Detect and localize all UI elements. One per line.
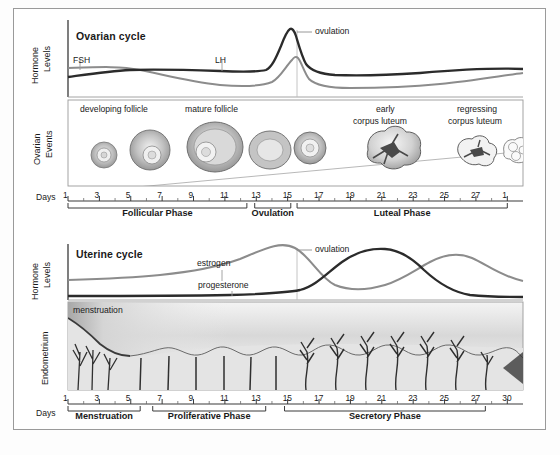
axis-tick-label: 1 xyxy=(63,393,68,403)
structure-early-corpus-luteum xyxy=(367,126,420,169)
axis-label-endometrium: Endometrium xyxy=(40,331,50,385)
structure-primary-follicle xyxy=(130,130,170,170)
ovarian-days-axis xyxy=(68,196,523,208)
event-label-early-corpus-luteum-1: early xyxy=(376,104,395,114)
menstruation-label: menstruation xyxy=(73,305,123,315)
axis-label-hormone-ovarian-1: Hormone xyxy=(30,47,40,84)
axis-tick-label: 25 xyxy=(440,190,449,200)
axis-tick-label: 23 xyxy=(408,190,417,200)
axis-label-hormone-ovarian-2: Levels xyxy=(42,46,52,72)
figure-root: Ovarian cycle Uterine cycle Hormone Leve… xyxy=(0,0,560,455)
axis-tick-label: 7 xyxy=(157,393,162,403)
axis-tick-label: 25 xyxy=(440,393,449,403)
axis-label-ovarian-events-2: Events xyxy=(44,130,54,158)
axis-tick-label: 23 xyxy=(408,393,417,403)
event-label-developing-follicle: developing follicle xyxy=(80,104,148,114)
axis-tick-label: 21 xyxy=(377,190,386,200)
phase-label: Follicular Phase xyxy=(122,208,192,218)
axis-tick-label: 1 xyxy=(502,190,507,200)
structure-ovulated-oocyte xyxy=(294,132,326,164)
axis-tick-label: 27 xyxy=(471,190,480,200)
figure-canvas xyxy=(0,0,560,455)
axis-tick-label: 7 xyxy=(157,190,162,200)
ovulation-label-ovarian: ovulation xyxy=(315,26,349,36)
days-label-ovarian: Days xyxy=(36,192,56,202)
axis-tick-label: 17 xyxy=(314,190,323,200)
axis-tick-label: 15 xyxy=(283,190,292,200)
uterine-cycle-title: Uterine cycle xyxy=(76,248,143,260)
axis-tick-label: 9 xyxy=(189,190,194,200)
axis-tick-label: 17 xyxy=(314,393,323,403)
axis-label-hormone-uterine-1: Hormone xyxy=(30,263,40,300)
axis-tick-label: 11 xyxy=(220,190,229,200)
ovulation-label-uterine: ovulation xyxy=(315,244,349,254)
axis-label-ovarian-events-1: Ovarian xyxy=(32,133,42,165)
endometrium-panel xyxy=(68,302,523,390)
lh-label: LH xyxy=(215,55,226,65)
event-label-early-corpus-luteum-2: corpus luteum xyxy=(353,116,407,126)
axis-tick-label: 5 xyxy=(126,190,131,200)
uterine-days-axis xyxy=(68,399,523,411)
days-label-uterine: Days xyxy=(36,408,56,418)
fsh-label: FSH xyxy=(73,55,90,65)
structure-ruptured-follicle xyxy=(249,131,291,169)
axis-tick-label: 9 xyxy=(189,393,194,403)
axis-label-hormone-uterine-2: Levels xyxy=(42,262,52,288)
phase-label: Luteal Phase xyxy=(374,208,431,218)
event-label-regressing-corpus-luteum-2: corpus luteum xyxy=(448,116,502,126)
axis-tick-label: 27 xyxy=(471,393,480,403)
phase-label: Secretory Phase xyxy=(349,411,421,421)
ovarian-events-panel xyxy=(40,100,560,196)
estrogen-label: estrogen xyxy=(197,258,230,268)
axis-tick-label: 15 xyxy=(283,393,292,403)
axis-tick-label: 11 xyxy=(220,393,229,403)
structure-primordial-follicle xyxy=(91,142,117,168)
progesterone-label: progesterone xyxy=(198,280,249,290)
phase-label: Proliferative Phase xyxy=(168,411,251,421)
structure-corpus-albicans xyxy=(504,138,533,163)
axis-tick-label: 13 xyxy=(251,393,260,403)
event-label-regressing-corpus-luteum-1: regressing xyxy=(457,104,497,114)
fsh-curve xyxy=(68,57,523,88)
axis-tick-label: 5 xyxy=(126,393,131,403)
axis-tick-label: 3 xyxy=(94,393,99,403)
phase-label: Menstruation xyxy=(75,411,133,421)
axis-tick-label: 21 xyxy=(377,393,386,403)
axis-tick-label: 13 xyxy=(251,190,260,200)
axis-tick-label: 19 xyxy=(345,393,354,403)
structure-graafian-follicle xyxy=(187,122,243,172)
axis-tick-label: 19 xyxy=(345,190,354,200)
axis-tick-label: 30 xyxy=(502,393,511,403)
event-label-mature-follicle: mature follicle xyxy=(185,104,238,114)
phase-label: Ovulation xyxy=(252,208,294,218)
ovarian-cycle-title: Ovarian cycle xyxy=(76,30,146,42)
axis-tick-label: 3 xyxy=(94,190,99,200)
axis-tick-label: 1 xyxy=(63,190,68,200)
